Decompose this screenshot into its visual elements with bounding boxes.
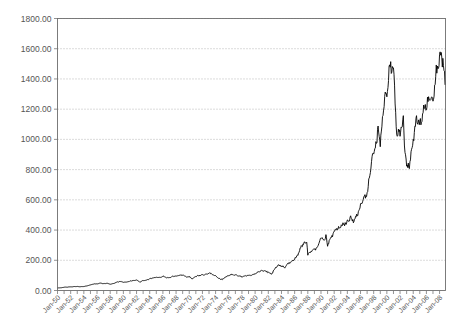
ytick-label-1800: 1800.00 (21, 14, 52, 24)
chart-container: 0.00200.00400.00600.00800.001000.001200.… (0, 0, 461, 323)
ytick-label-1200: 1200.00 (21, 104, 52, 114)
ytick-label-1600: 1600.00 (21, 44, 52, 54)
ytick-label-600: 600.00 (26, 195, 52, 205)
ytick-label-1000: 1000.00 (21, 134, 52, 144)
line-chart-svg: 0.00200.00400.00600.00800.001000.001200.… (0, 0, 461, 323)
plot-border (58, 19, 446, 291)
ytick-label-200: 200.00 (26, 255, 52, 265)
ytick-label-1400: 1400.00 (21, 74, 52, 84)
data-line-index-level (58, 52, 446, 288)
ytick-label-800: 800.00 (26, 165, 52, 175)
ytick-label-0: 0.00 (35, 286, 52, 296)
ytick-label-400: 400.00 (26, 225, 52, 235)
chart-plot-area: 0.00200.00400.00600.00800.001000.001200.… (0, 0, 461, 323)
